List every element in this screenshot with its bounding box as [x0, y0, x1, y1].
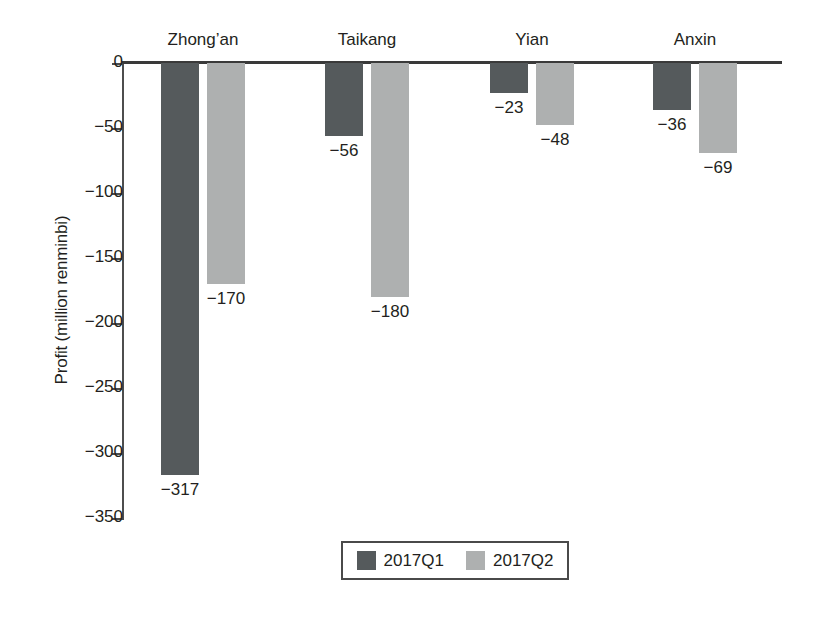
y-tick-label: −150: [28, 247, 123, 267]
legend-swatch-icon-q2: [466, 551, 485, 570]
category-label: Yian: [450, 30, 614, 50]
bar-q2: [207, 63, 245, 284]
category-label: Anxin: [613, 30, 777, 50]
y-tick-label: −300: [28, 442, 123, 462]
chart-legend: 2017Q1 2017Q2: [341, 541, 569, 580]
bar-value-label: −317: [140, 480, 220, 500]
y-axis-title: Profit (million renminbi): [52, 120, 72, 480]
bar-q1: [653, 63, 691, 110]
category-label: Taikang: [285, 30, 449, 50]
bar-q1: [161, 63, 199, 475]
y-tick-label: −50: [28, 117, 123, 137]
bar-value-label: −48: [515, 130, 595, 150]
legend-label-q2: 2017Q2: [493, 551, 554, 571]
category-label: Zhong’an: [121, 30, 285, 50]
y-tick-label: −350: [28, 507, 123, 527]
legend-item-q2: 2017Q2: [466, 551, 554, 571]
legend-swatch-icon-q1: [357, 551, 376, 570]
bar-q1: [490, 63, 528, 93]
bar-value-label: −69: [678, 158, 758, 178]
bar-q2: [536, 63, 574, 125]
legend-item-q1: 2017Q1: [357, 551, 445, 571]
y-tick-label: −200: [28, 312, 123, 332]
y-tick-label: 0: [28, 52, 123, 72]
legend-label-q1: 2017Q1: [384, 551, 445, 571]
bar-q1: [325, 63, 363, 136]
y-tick-label: −100: [28, 182, 123, 202]
y-tick-label: −250: [28, 377, 123, 397]
bar-q2: [371, 63, 409, 297]
bar-value-label: −170: [186, 289, 266, 309]
bar-value-label: −180: [350, 302, 430, 322]
bar-q2: [699, 63, 737, 153]
bar-chart: Profit (million renminbi) 0−50−100−150−2…: [0, 0, 816, 619]
